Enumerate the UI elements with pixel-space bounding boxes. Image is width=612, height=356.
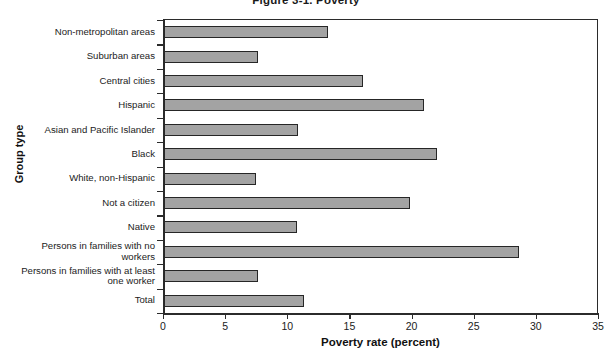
bar[interactable] [164, 148, 437, 160]
bar[interactable] [164, 26, 328, 38]
bar-row [164, 20, 598, 44]
category-label: Suburban areas [0, 44, 160, 68]
y-tick [157, 93, 164, 94]
y-tick [157, 264, 164, 265]
x-tick-label: 20 [406, 320, 418, 332]
x-tick-label: 0 [160, 320, 166, 332]
bar-row [164, 44, 598, 68]
bar-row [164, 264, 598, 288]
y-tick [157, 69, 164, 70]
y-tick [157, 142, 164, 143]
x-tick [412, 313, 413, 319]
y-tick [157, 20, 164, 21]
bar[interactable] [164, 246, 519, 258]
x-tick-label: 25 [468, 320, 480, 332]
bar[interactable] [164, 221, 297, 233]
y-tick [157, 289, 164, 290]
bar[interactable] [164, 124, 298, 136]
bar-row [164, 69, 598, 93]
bar-row [164, 288, 598, 312]
bar[interactable] [164, 295, 304, 307]
x-tick-label: 5 [222, 320, 228, 332]
y-tick [157, 191, 164, 192]
bar-row [164, 142, 598, 166]
category-label: Total [0, 288, 160, 312]
bar-row [164, 118, 598, 142]
x-tick-label: 10 [281, 320, 293, 332]
y-tick [157, 44, 164, 45]
x-tick-label: 35 [592, 320, 604, 332]
bar-row [164, 93, 598, 117]
x-tick [536, 313, 537, 319]
figure-container: Figure 3-1. Poverty Non-metropolitan are… [0, 0, 612, 356]
bar[interactable] [164, 75, 363, 87]
category-label: Non-metropolitan areas [0, 20, 160, 44]
bar-row [164, 240, 598, 264]
y-axis-title: Group type [13, 109, 25, 199]
bars-group [164, 20, 598, 313]
x-tick-label: 15 [344, 320, 356, 332]
bar[interactable] [164, 99, 424, 111]
y-tick [157, 167, 164, 168]
y-tick [157, 240, 164, 241]
bar[interactable] [164, 197, 410, 209]
bar[interactable] [164, 270, 258, 282]
x-tick [225, 313, 226, 319]
bar[interactable] [164, 173, 256, 185]
chart-title: Figure 3-1. Poverty [0, 0, 612, 6]
x-tick [474, 313, 475, 319]
x-axis-line [163, 313, 599, 315]
y-tick [157, 215, 164, 216]
y-tick [157, 118, 164, 119]
bar-row [164, 215, 598, 239]
category-label: Persons in families with noworkers [0, 240, 160, 264]
bar[interactable] [164, 51, 258, 63]
bar-row [164, 191, 598, 215]
category-label: Native [0, 215, 160, 239]
x-tick [163, 313, 164, 319]
x-tick-label: 30 [530, 320, 542, 332]
x-tick [598, 313, 599, 319]
bar-row [164, 166, 598, 190]
category-label: Persons in families with at leastone wor… [0, 264, 160, 288]
x-axis-title: Poverty rate (percent) [163, 336, 598, 348]
x-tick [287, 313, 288, 319]
x-tick [349, 313, 350, 319]
category-label: Central cities [0, 69, 160, 93]
